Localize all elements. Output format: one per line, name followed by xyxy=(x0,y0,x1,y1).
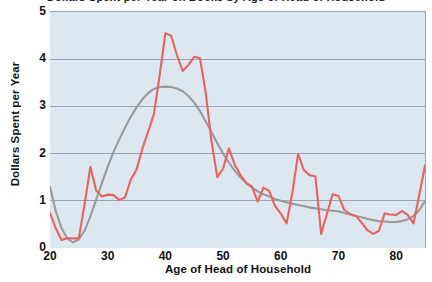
x-tick-label: 50 xyxy=(203,250,243,262)
x-axis-title: Age of Head of Household xyxy=(50,263,426,275)
x-axis-tick-labels: 20304050607080 xyxy=(0,0,432,282)
x-tick-label: 30 xyxy=(88,250,128,262)
x-tick-label: 80 xyxy=(376,250,416,262)
x-tick-label: 70 xyxy=(318,250,358,262)
chart-figure: Dollars Spent per Year on Books by Age o… xyxy=(0,0,432,282)
x-tick-label: 20 xyxy=(30,250,70,262)
x-tick-label: 60 xyxy=(261,250,301,262)
x-tick-label: 40 xyxy=(145,250,185,262)
